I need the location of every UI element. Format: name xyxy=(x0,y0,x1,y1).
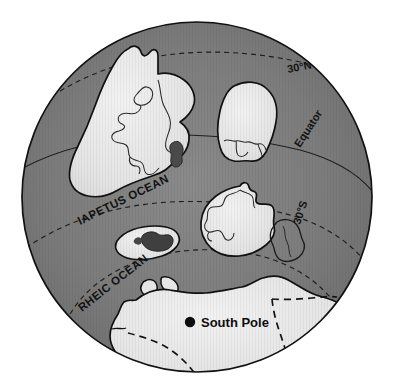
globe-svg: 30°N Equator 30°S IAPETUS OCEAN RHEIC OC… xyxy=(0,0,395,389)
southern-polar-coast-detail xyxy=(112,328,126,329)
landmass-siberia-oval-continent xyxy=(218,82,277,161)
south-pole-dot xyxy=(185,317,195,327)
paleogeographic-map: 30°N Equator 30°S IAPETUS OCEAN RHEIC OC… xyxy=(0,0,395,389)
label-south-pole: South Pole xyxy=(201,315,269,330)
laurentia-dark-patch xyxy=(170,141,183,167)
